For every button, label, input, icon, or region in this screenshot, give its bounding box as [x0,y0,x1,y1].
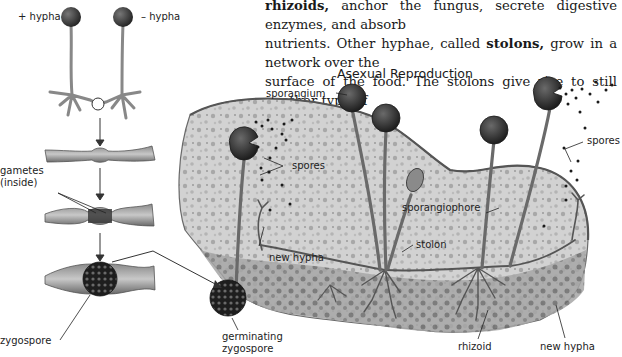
label-rhizoid: rhizoid [458,341,492,353]
label-new-hypha-center: new hypha [269,252,324,264]
label-stolon: stolon [416,239,446,251]
joined-hyphae [45,146,155,162]
sporangium-4 [480,116,508,144]
label-spores-left: spores [292,160,325,172]
label-germinating-zygospore: germinating zygospore [222,331,283,355]
label-zygospore: zygospore [0,335,51,347]
label-sporangiophore: sporangiophore [402,202,480,214]
label-spores-right: spores [587,135,620,147]
asexual-reproduction-heading: Asexual Reproduction [337,66,473,81]
label-sporangium: sporangium [266,88,325,100]
plus-hypha-sporangium [61,7,81,27]
minus-hypha-sporangium [113,7,133,27]
label-minus-hypha: – hypha [141,11,180,23]
sporangium-tall [338,84,366,112]
label-plus-hypha: + hypha [18,11,61,23]
zygospore [83,262,117,296]
contact-circle [92,98,104,110]
bread-mold-illustration [0,0,622,357]
sporangium-2 [372,104,400,132]
sporangium-burst-right [533,77,562,110]
label-gametes: gametes (inside) [0,165,44,189]
label-new-hypha-right: new hypha [540,341,595,353]
